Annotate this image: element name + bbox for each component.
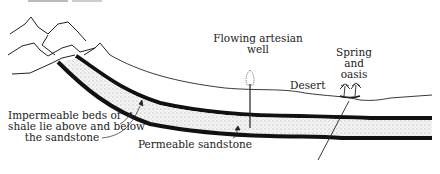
well-label: Flowing artesian well: [208, 33, 308, 55]
spring-label: Spring and oasis: [334, 47, 374, 80]
well-label-line2: well: [208, 44, 308, 55]
ground-surface: [110, 55, 432, 100]
sandstone-label: Permeable sandstone: [138, 139, 252, 150]
spring-label-line3: oasis: [334, 69, 374, 80]
shale-label-line3: the sandstone: [8, 132, 116, 143]
water-spout-icon: [246, 70, 254, 85]
oasis-palm-icon: [340, 83, 361, 98]
desert-label: Desert: [290, 80, 325, 91]
cut-off-caption: [28, 0, 102, 2]
shale-label: Impermeable beds of shale lie above and …: [8, 110, 116, 143]
